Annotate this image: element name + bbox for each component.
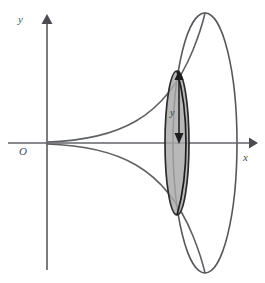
origin-label: O [19, 146, 27, 157]
radius-label: y [170, 108, 174, 118]
y-axis-label: y [18, 14, 23, 25]
x-axis-arrowhead [249, 138, 258, 149]
y-axis-arrowhead [42, 14, 53, 24]
x-axis-label: x [243, 152, 248, 163]
solid-of-revolution-figure [0, 0, 265, 283]
figure-container: y x O y [0, 0, 265, 283]
